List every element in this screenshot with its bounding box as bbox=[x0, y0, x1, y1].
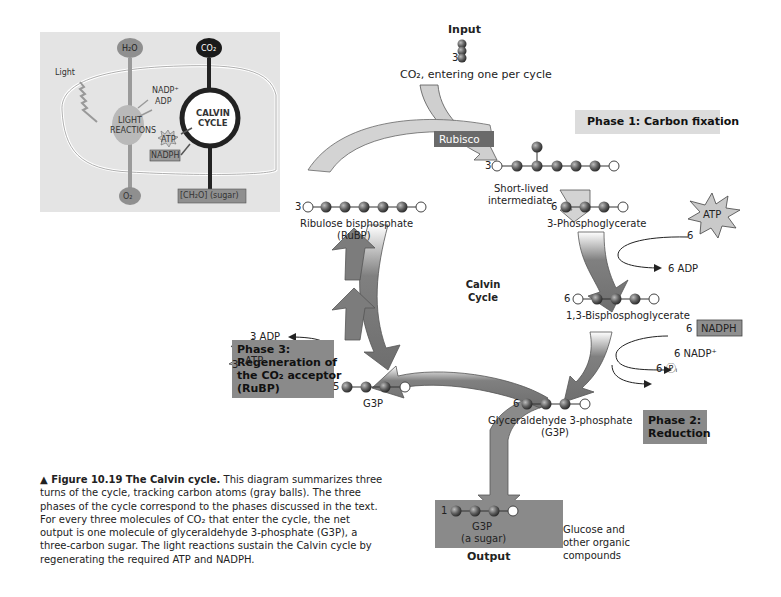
atp6-label: ATP bbox=[703, 209, 721, 221]
intermediate-chain bbox=[492, 142, 619, 172]
inset-calvin-2: CYCLE bbox=[198, 119, 228, 128]
output-destination-3: compounds bbox=[563, 550, 621, 562]
adp6-label: 6 ADP bbox=[668, 263, 698, 275]
caption-title: The Calvin cycle. bbox=[126, 474, 221, 485]
caption-body: This diagram summarizes three turns of t… bbox=[40, 474, 382, 565]
inset-co2: CO₂ bbox=[201, 44, 216, 53]
atp3-count: 3 bbox=[232, 359, 238, 371]
center-label-1: Calvin bbox=[458, 279, 508, 291]
intermediate-count: 3 bbox=[485, 160, 491, 172]
co2-input-balls bbox=[458, 40, 467, 63]
bpg-label: 1,3-Bisphosphoglycerate bbox=[566, 310, 690, 322]
input-count: 3 bbox=[452, 52, 458, 64]
inset-o2: O₂ bbox=[123, 192, 133, 201]
rubp-chain bbox=[303, 202, 426, 213]
inset-sugar: [CH₂O] (sugar) bbox=[180, 191, 239, 200]
inset-light: Light bbox=[55, 68, 75, 77]
inset-light-reactions-1: LIGHT bbox=[118, 116, 142, 125]
output-destination-1: Glucose and bbox=[563, 524, 625, 536]
inset-nadp: NADP⁺ bbox=[152, 86, 179, 95]
phase2-label-1: Phase 2: bbox=[648, 414, 701, 427]
inset-nadph: NADPH bbox=[151, 151, 179, 160]
phase3-label-3: the CO₂ acceptor bbox=[237, 369, 342, 382]
phase3-label-4: (RuBP) bbox=[237, 382, 280, 395]
output-title: Output bbox=[467, 551, 510, 563]
input-label: CO₂, entering one per cycle bbox=[400, 69, 552, 81]
bpg-chain bbox=[573, 294, 659, 305]
nadph6-label: NADPH bbox=[701, 323, 737, 335]
output-destination-2: other organic bbox=[563, 537, 630, 549]
rubp-label-1: Ribulose bisphosphate bbox=[300, 218, 413, 230]
g3p-count: 6 bbox=[513, 398, 519, 410]
rubp-label-2: (RuBP) bbox=[337, 230, 371, 242]
phase1-label: Phase 1: Carbon fixation bbox=[587, 115, 739, 128]
inset-h2o: H₂O bbox=[122, 44, 138, 53]
caption-figure: ▲ Figure 10.19 bbox=[40, 474, 123, 485]
output-label-2: (a sugar) bbox=[461, 533, 506, 545]
intermediate-label-2: intermediate bbox=[488, 195, 552, 207]
inset-calvin-1: CALVIN bbox=[196, 109, 230, 118]
pga-label: 3-Phosphoglycerate bbox=[547, 218, 646, 230]
figure-caption: ▲ Figure 10.19 The Calvin cycle. This di… bbox=[40, 473, 385, 566]
inset-overview-panel bbox=[40, 32, 280, 212]
adp3-label: 3 ADP bbox=[250, 331, 280, 343]
g3p5-count: 5 bbox=[333, 381, 339, 393]
rubp-count: 3 bbox=[295, 201, 301, 213]
output-label-1: G3P bbox=[472, 521, 492, 533]
pi6-label: 6 Ⓟᵢ bbox=[656, 363, 677, 375]
g3p-label-1: Glyceraldehyde 3-phosphate bbox=[488, 415, 632, 427]
g3p5-label: G3P bbox=[363, 398, 383, 410]
inset-adp: ADP bbox=[155, 97, 171, 106]
nadp6-label: 6 NADP⁺ bbox=[674, 348, 717, 360]
output-count: 1 bbox=[441, 505, 447, 517]
rubisco-label: Rubisco bbox=[439, 133, 480, 145]
atp6-count: 6 bbox=[687, 230, 693, 242]
phase2-label-2: Reduction bbox=[648, 427, 711, 440]
inset-light-reactions-2: REACTIONS bbox=[110, 126, 156, 135]
atp3-label: ATP bbox=[245, 355, 263, 367]
inset-atp: ATP bbox=[161, 135, 176, 144]
input-title: Input bbox=[448, 24, 481, 36]
intermediate-label-1: Short-lived bbox=[494, 183, 548, 195]
bpg-count: 6 bbox=[564, 293, 570, 305]
nadph6-count: 6 bbox=[686, 323, 692, 335]
center-label-2: Cycle bbox=[458, 292, 508, 304]
pga-count: 6 bbox=[551, 201, 557, 213]
g3p-label-2: (G3P) bbox=[541, 427, 569, 439]
